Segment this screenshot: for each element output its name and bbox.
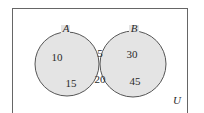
region-a-only-value: 15 xyxy=(66,77,78,89)
set-b-label: B xyxy=(131,22,138,34)
region-intersection-value: 5 xyxy=(97,47,103,59)
region-a-only-value: 10 xyxy=(52,51,64,63)
region-intersection-value: 20 xyxy=(95,73,107,85)
universe-label: U xyxy=(173,94,182,106)
region-b-only-value: 30 xyxy=(127,48,139,60)
set-a-label: A xyxy=(62,22,70,34)
venn-diagram: A B 10 15 5 20 30 45 U xyxy=(0,0,204,113)
region-b-only-value: 45 xyxy=(130,75,142,87)
